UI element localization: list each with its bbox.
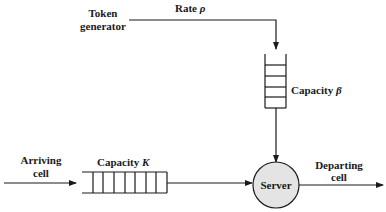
departing-cell-label-line1: Departing (315, 159, 363, 171)
token-generator-label-line2: generator (80, 20, 126, 32)
capacity-beta-label: Capacity β (291, 84, 342, 96)
departing-cell-label-line2: cell (331, 171, 347, 183)
arriving-cell-label-line2: cell (33, 167, 49, 179)
cell-buffer (82, 172, 167, 193)
token-flow-line (129, 20, 276, 49)
capacity-k-label: Capacity K (97, 156, 150, 168)
rate-label: Rate ρ (175, 2, 206, 14)
server-label: Server (260, 179, 291, 191)
token-bucket-diagram: Token generator Rate ρ Capacity β Arrivi… (0, 0, 386, 212)
token-generator-label-line1: Token (89, 7, 118, 19)
arriving-cell-label-line1: Arriving (21, 154, 62, 166)
token-buffer (265, 54, 286, 108)
